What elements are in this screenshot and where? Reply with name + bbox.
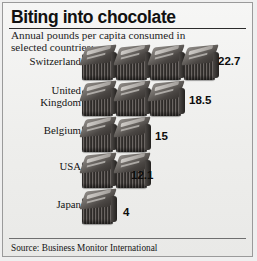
chart-frame: Biting into chocolate Annual pounds per … (2, 2, 253, 257)
category-label-switzerland: Switzerland (29, 56, 81, 68)
chocolate-icon (81, 81, 117, 119)
chocolate-icon (149, 81, 185, 119)
chart-plot-area: Switzerland 22.7 United Kingdom 18.5 Bel… (3, 47, 254, 233)
category-label-united-kingdom-line2: Kingdom (40, 97, 81, 109)
chocolate-icon (81, 45, 117, 83)
chocolate-icon (81, 189, 117, 227)
category-label-usa: USA (59, 161, 81, 173)
chocolate-icon (149, 45, 185, 83)
page-title: Biting into chocolate (11, 7, 176, 28)
infographic-chart: Biting into chocolate Annual pounds per … (0, 0, 257, 261)
value-label-belgium: 15 (155, 130, 168, 142)
value-label-united-kingdom: 18.5 (189, 94, 211, 106)
source-credit: Source: Business Monitor International (11, 243, 157, 253)
value-label-japan: 4 (123, 206, 129, 218)
chocolate-icon (115, 81, 151, 119)
value-label-usa: 12.1 (131, 169, 153, 181)
category-label-belgium: Belgium (44, 125, 81, 137)
value-label-switzerland: 22.7 (218, 55, 240, 67)
category-label-united-kingdom: United (52, 85, 81, 97)
chocolate-icon (115, 45, 151, 83)
category-label-japan: Japan (56, 199, 81, 211)
table-row: Japan 4 (3, 183, 254, 223)
source-divider (9, 238, 246, 239)
chocolate-icon (183, 45, 219, 83)
